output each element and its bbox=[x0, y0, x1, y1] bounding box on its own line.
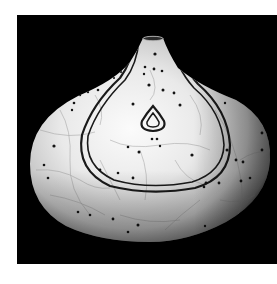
neck-opening bbox=[143, 36, 163, 40]
photo-frame: Black and white photograph of a squat on… bbox=[17, 15, 277, 264]
vase-photo bbox=[17, 15, 277, 264]
